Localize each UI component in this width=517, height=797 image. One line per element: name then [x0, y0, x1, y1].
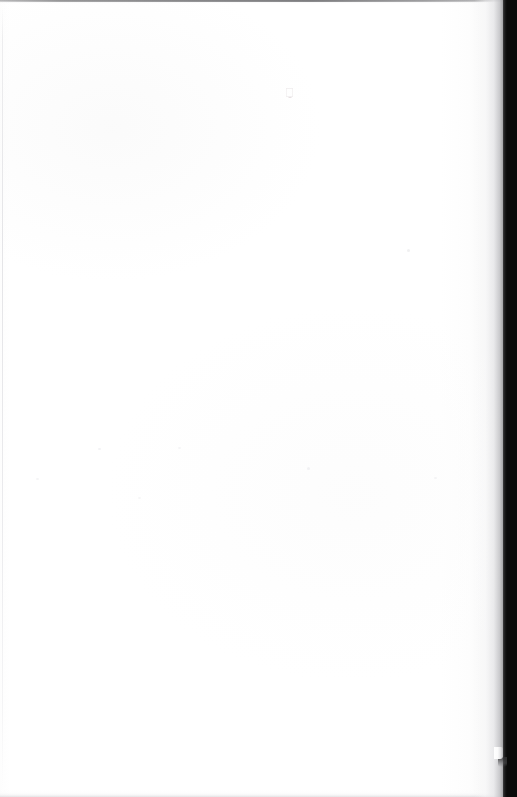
top-edge-shadow — [0, 0, 504, 4]
dust-speck — [36, 478, 39, 480]
bottom-edge-shadow — [0, 790, 504, 797]
left-edge-rule — [2, 8, 3, 786]
page-sheet — [0, 0, 504, 797]
binding-gutter-band — [503, 0, 517, 797]
gutter-edge-highlight — [503, 0, 507, 797]
page-edge-bulge — [494, 747, 503, 759]
page-content-area — [46, 56, 450, 746]
scanned-page-canvas — [0, 0, 517, 797]
